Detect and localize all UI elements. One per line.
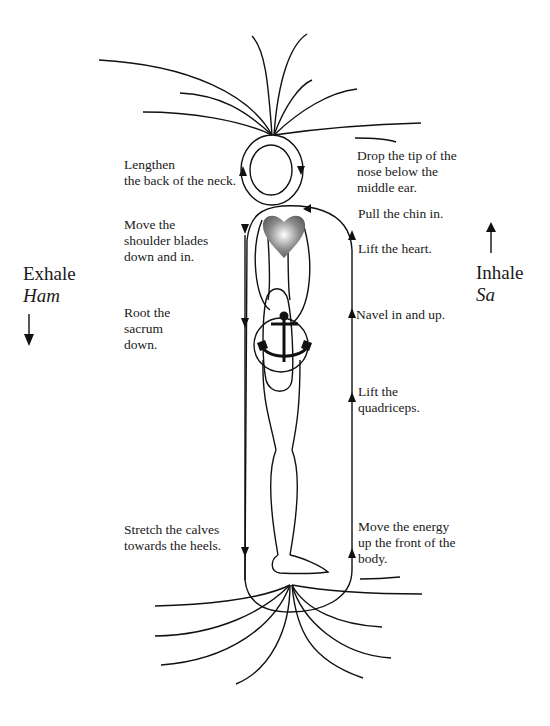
instruction-nose: Drop the tip of the nose below the middl… (357, 148, 457, 196)
inhale-mantra: Sa (476, 284, 523, 306)
exhale-mantra: Ham (23, 285, 76, 307)
instruction-navel: Navel in and up. (356, 307, 445, 323)
body-figure-diagram (0, 0, 550, 726)
head (250, 145, 292, 195)
inhale-label: Inhale Sa (476, 262, 523, 306)
instruction-energy: Move the energy up the front of the body… (358, 519, 455, 567)
instruction-heart: Lift the heart. (358, 241, 432, 257)
instruction-neck: Lengthen the back of the neck. (124, 157, 236, 189)
bottom-energy-lines (155, 577, 422, 684)
instruction-calves: Stretch the calves towards the heels. (124, 522, 221, 554)
inhale-title: Inhale (476, 262, 523, 283)
exhale-label: Exhale Ham (23, 263, 76, 307)
instruction-shoulders: Move the shoulder blades down and in. (124, 217, 208, 265)
top-energy-lines (99, 34, 421, 142)
exhale-title: Exhale (23, 263, 76, 284)
instruction-quadriceps: Lift the quadriceps. (358, 384, 420, 416)
instruction-chin: Pull the chin in. (358, 206, 444, 222)
instruction-sacrum: Root the sacrum down. (124, 305, 170, 353)
